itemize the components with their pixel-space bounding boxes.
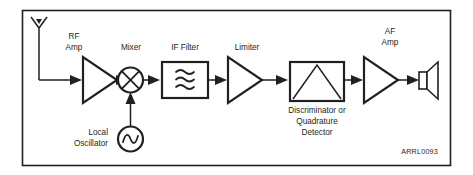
- af-amp-label-line2: Amp: [382, 38, 399, 47]
- local-oscillator-label-line1: Local: [88, 128, 108, 137]
- mixer-block: [118, 68, 143, 93]
- discriminator-label-line2: Quadrature: [296, 117, 338, 126]
- discriminator-label-line1: Discriminator or: [288, 106, 346, 115]
- fm-receiver-block-diagram-figure: RF Amp Mixer IF Filter Limiter AF Amp Lo…: [0, 0, 473, 175]
- discriminator-block: [290, 62, 344, 101]
- af-amp-label-line1: AF: [385, 27, 395, 36]
- credit-label: ARRL0093: [401, 147, 438, 156]
- local-oscillator-label-line2: Oscillator: [74, 139, 108, 148]
- mixer-label: Mixer: [121, 43, 141, 52]
- diagram-canvas: RF Amp Mixer IF Filter Limiter AF Amp Lo…: [0, 0, 473, 175]
- rf-amp-label-line2: Amp: [66, 43, 83, 52]
- discriminator-label-line3: Detector: [302, 128, 333, 137]
- rf-amp-label-line1: RF: [69, 32, 80, 41]
- limiter-label: Limiter: [235, 43, 260, 52]
- if-filter-label: IF Filter: [171, 43, 199, 52]
- if-filter-block: [162, 62, 208, 98]
